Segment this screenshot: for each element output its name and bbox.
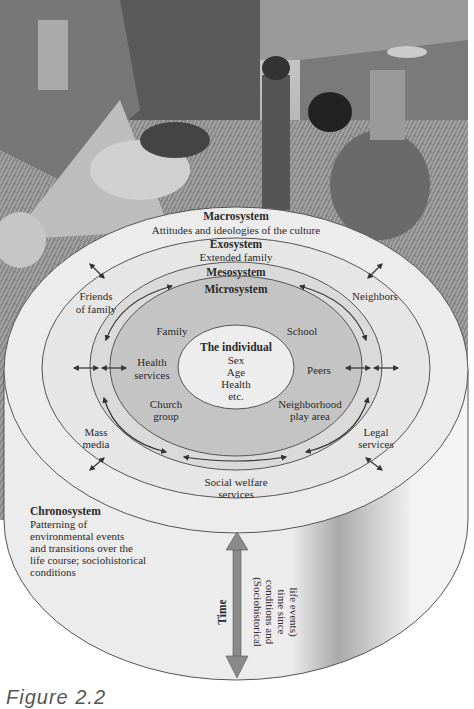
micro-neighborhood-2: play area xyxy=(290,410,330,422)
time-label: Time xyxy=(216,599,228,624)
micro-family: Family xyxy=(156,325,188,337)
exo-friends-2: of family xyxy=(76,303,117,315)
micro-peers: Peers xyxy=(307,364,331,376)
chronosystem-desc-5: conditions xyxy=(30,566,76,578)
figure-caption: Figure 2.2 xyxy=(6,686,106,709)
exo-mass-2: media xyxy=(83,438,110,450)
individual-attr-age: Age xyxy=(227,366,245,378)
exosystem-subtitle: Extended family xyxy=(199,251,273,263)
mesosystem-title: Mesosystem xyxy=(206,266,266,279)
chronosystem-desc-1: Patterning of xyxy=(30,518,87,530)
chronosystem-desc-2: environmental events xyxy=(30,530,124,542)
exo-friends-1: Friends xyxy=(80,290,113,302)
time-note-4: life events) xyxy=(287,587,300,637)
exo-welfare-1: Social welfare xyxy=(204,476,267,488)
time-note-3: time since xyxy=(276,590,288,635)
macrosystem-title: Macrosystem xyxy=(203,210,269,223)
time-note-2: conditions and xyxy=(264,580,276,645)
individual-title: The individual xyxy=(200,341,272,353)
chronosystem-desc-3: and transitions over the xyxy=(30,542,133,554)
exo-neighbors: Neighbors xyxy=(352,290,398,302)
micro-school: School xyxy=(287,325,318,337)
micro-church-1: Church xyxy=(150,398,183,410)
micro-neighborhood-1: Neighborhood xyxy=(278,398,342,410)
micro-health-2: services xyxy=(134,369,169,381)
exo-legal-1: Legal xyxy=(363,426,388,438)
microsystem-title: Microsystem xyxy=(204,283,267,296)
exosystem-title: Exosystem xyxy=(210,238,263,251)
individual-attr-health: Health xyxy=(221,378,251,390)
chronosystem-title: Chronosystem xyxy=(30,505,101,518)
chronosystem-desc-4: life course; sociohistorical xyxy=(30,554,146,566)
individual-attr-etc: etc. xyxy=(228,390,244,402)
macrosystem-subtitle: Attitudes and ideologies of the culture xyxy=(152,224,320,236)
exo-legal-2: services xyxy=(358,438,393,450)
micro-church-2: group xyxy=(153,410,179,422)
individual-attr-sex: Sex xyxy=(228,354,245,366)
micro-health-1: Health xyxy=(137,356,167,368)
time-note-1: (Sociohistorical xyxy=(251,577,264,647)
exo-welfare-2: services xyxy=(218,488,253,500)
exo-mass-1: Mass xyxy=(84,426,107,438)
